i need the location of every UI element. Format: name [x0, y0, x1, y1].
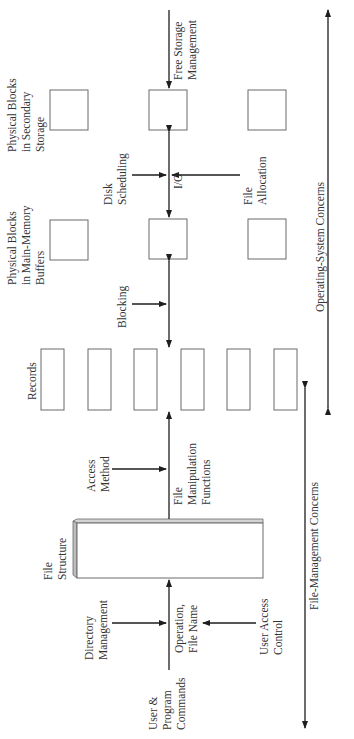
label-file-structure: File Structure	[42, 538, 68, 580]
secondary-storage-block-2	[149, 90, 187, 130]
file-structure-box	[73, 519, 263, 578]
label-blocking: Blocking	[116, 286, 129, 328]
label-file-allocation: File Allocation	[242, 156, 268, 205]
secondary-storage-blocks	[50, 90, 286, 130]
record-5	[227, 349, 250, 410]
label-os-concerns: Operating-System Concerns	[314, 181, 327, 312]
record-1	[41, 349, 64, 410]
label-file-manipulation-functions: File Manipulation Functions	[172, 440, 212, 505]
label-physical-blocks-secondary: Physical Blocks in Secondary Storage	[6, 75, 47, 152]
main-memory-block-1	[50, 220, 88, 260]
label-user-program-commands: User & Program Commands	[147, 677, 187, 730]
secondary-storage-block-3	[248, 90, 286, 130]
label-operation-file-name: Operation, File Name	[173, 601, 199, 653]
records-group	[41, 349, 297, 410]
record-3	[134, 349, 157, 410]
label-access-method: Access Method	[85, 456, 111, 492]
record-2	[88, 349, 111, 410]
label-free-storage-management: Free Storage Management	[172, 19, 199, 80]
label-disk-scheduling: Disk Scheduling	[102, 153, 129, 205]
record-4	[181, 349, 204, 410]
label-physical-blocks-main-memory: Physical Blocks in Main-Memory Buffers	[6, 203, 46, 285]
file-system-diagram: Physical Blocks in Secondary Storage Phy…	[0, 0, 354, 739]
secondary-storage-block-1	[50, 90, 88, 130]
main-memory-block-2	[149, 219, 187, 259]
label-directory-management: Directory Management	[83, 599, 110, 660]
record-6	[274, 349, 297, 410]
main-memory-block-3	[248, 219, 286, 259]
label-io: I/O	[172, 174, 184, 189]
label-user-access-control: User Access Control	[258, 596, 284, 655]
label-records: Records	[26, 362, 38, 400]
main-memory-blocks	[50, 219, 286, 260]
label-file-management-concerns: File-Management Concerns	[308, 481, 321, 610]
